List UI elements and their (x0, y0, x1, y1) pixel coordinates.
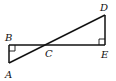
segment-ad (9, 15, 105, 63)
label-e: E (100, 49, 109, 60)
label-b: B (4, 32, 12, 43)
label-a: A (4, 69, 12, 80)
right-angle-mark-e (99, 39, 105, 45)
label-c: C (45, 48, 53, 59)
label-d: D (99, 2, 108, 13)
geometry-diagram: D B C E A (0, 0, 116, 81)
right-angle-mark-b (9, 45, 15, 51)
